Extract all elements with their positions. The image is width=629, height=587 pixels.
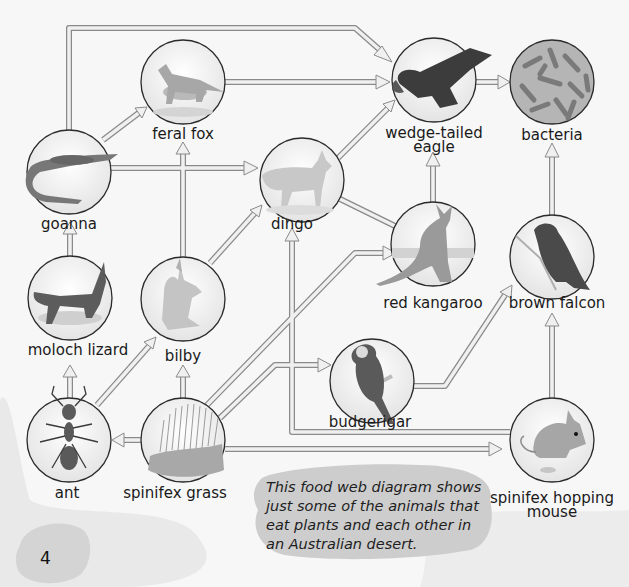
label-bacteria: bacteria [521, 128, 583, 143]
node-ant [27, 386, 111, 482]
label-bilby: bilby [165, 349, 201, 364]
node-goanna [26, 130, 118, 214]
caption-line-4: an Australian desert. [266, 535, 486, 554]
node-brown-falcon [510, 215, 594, 299]
node-budgerigar [330, 339, 414, 424]
label-goanna: goanna [41, 217, 97, 232]
label-red-kangaroo: red kangaroo [383, 296, 482, 311]
node-dingo [260, 138, 344, 222]
node-bacteria [510, 40, 594, 124]
label-moloch-lizard: moloch lizard [28, 343, 128, 358]
caption-line-1: This food web diagram shows [266, 478, 486, 497]
page-number: 4 [40, 548, 51, 568]
node-feral-fox [141, 40, 225, 124]
node-red-kangaroo [376, 202, 475, 286]
label-wedge-tailed-eagle-line2: eagle [413, 140, 454, 155]
node-spinifex-grass [141, 398, 225, 482]
caption-line-2: just some of the animals that [266, 497, 486, 516]
node-spinifex-hopping-mouse [510, 398, 594, 482]
label-feral-fox: feral fox [152, 127, 214, 142]
label-brown-falcon: brown falcon [509, 296, 606, 311]
label-ant: ant [55, 486, 80, 501]
caption-text: This food web diagram shows just some of… [266, 478, 486, 554]
caption-line-3: eat plants and each other in [266, 516, 486, 535]
label-spinifex-hopping-mouse-line2: mouse [527, 505, 577, 520]
label-budgerigar: budgerigar [329, 415, 412, 430]
node-moloch-lizard [28, 256, 112, 340]
label-spinifex-grass: spinifex grass [123, 486, 227, 501]
food-web-diagram: feral fox wedge-tailed eagle bacteria go… [0, 0, 629, 587]
node-bilby [141, 257, 225, 341]
label-dingo: dingo [271, 217, 313, 232]
node-wedge-tailed-eagle [392, 38, 492, 122]
